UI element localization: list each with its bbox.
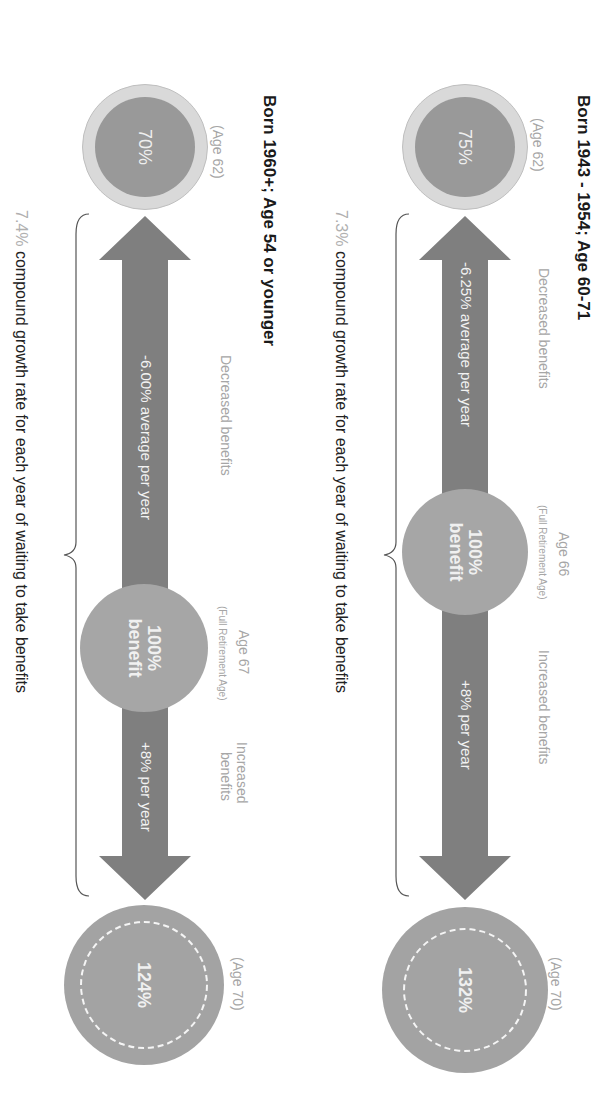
growth-bracket (352, 212, 412, 898)
early-benefit-circle: 75% (402, 84, 528, 210)
full-benefit-circle: 100% benefit (80, 584, 208, 712)
panel-1943-1954: Born 1943 - 1954; Age 60-71 (Age 62) 75%… (304, 0, 608, 1106)
full-benefit-word: benefit (125, 618, 144, 677)
growth-caption: 7.4% compound growth rate for each year … (12, 210, 30, 693)
growth-bracket (32, 212, 92, 898)
late-age-label: (Age 70) (230, 957, 246, 1011)
late-benefit-value: 132% (403, 928, 527, 1052)
increased-benefits-label: Increased benefits (218, 742, 250, 803)
full-benefit-pct: 100% (144, 625, 163, 671)
panel-1960-plus: Born 1960+; Age 54 or younger (Age 62) 7… (0, 0, 304, 1106)
decreased-benefits-label: Decreased benefits (536, 268, 552, 389)
full-benefit-word: benefit (446, 522, 465, 581)
full-benefit-circle: 100% benefit (402, 489, 528, 615)
benefit-diagram: Born 1943 - 1954; Age 60-71 (Age 62) 75%… (0, 0, 608, 1106)
increased-line-1: Increased (234, 742, 250, 803)
growth-caption: 7.3% compound growth rate for each year … (332, 210, 350, 693)
growth-rate: 7.3% (333, 210, 350, 246)
early-benefit-value: 75% (415, 97, 515, 197)
growth-caption-text: compound growth rate for each year of wa… (333, 246, 350, 692)
decrease-rate: -6.25% average per year (458, 262, 475, 427)
full-retirement-age: Age 66 (556, 532, 572, 576)
increase-rate: +8% per year (458, 680, 475, 770)
early-age-label: (Age 62) (210, 125, 226, 179)
full-retirement-note: (Full Retirement Age) (214, 606, 230, 700)
late-age-label: (Age 70) (548, 957, 564, 1011)
panel-title: Born 1943 - 1954; Age 60-71 (573, 95, 593, 320)
increase-rate: +8% per year (138, 742, 155, 832)
full-retirement-note: (Full Retirement Age) (534, 505, 550, 599)
early-age-label: (Age 62) (530, 118, 546, 172)
growth-caption-text: compound growth rate for each year of wa… (13, 246, 30, 692)
decrease-rate: -6.00% average per year (138, 355, 155, 520)
increased-benefits-label: Increased benefits (536, 650, 552, 764)
early-benefit-circle: 70% (82, 84, 208, 210)
full-retirement-age: Age 67 (236, 630, 252, 674)
decreased-benefits-label: Decreased benefits (218, 355, 234, 476)
increased-line-2: benefits (218, 742, 234, 803)
panel-title: Born 1960+; Age 54 or younger (259, 95, 279, 346)
growth-rate: 7.4% (13, 210, 30, 246)
late-benefit-circle: 132% (382, 907, 548, 1073)
late-benefit-value: 124% (80, 921, 208, 1049)
early-benefit-value: 70% (95, 97, 195, 197)
late-benefit-circle: 124% (64, 905, 224, 1065)
full-benefit-pct: 100% (465, 529, 484, 575)
